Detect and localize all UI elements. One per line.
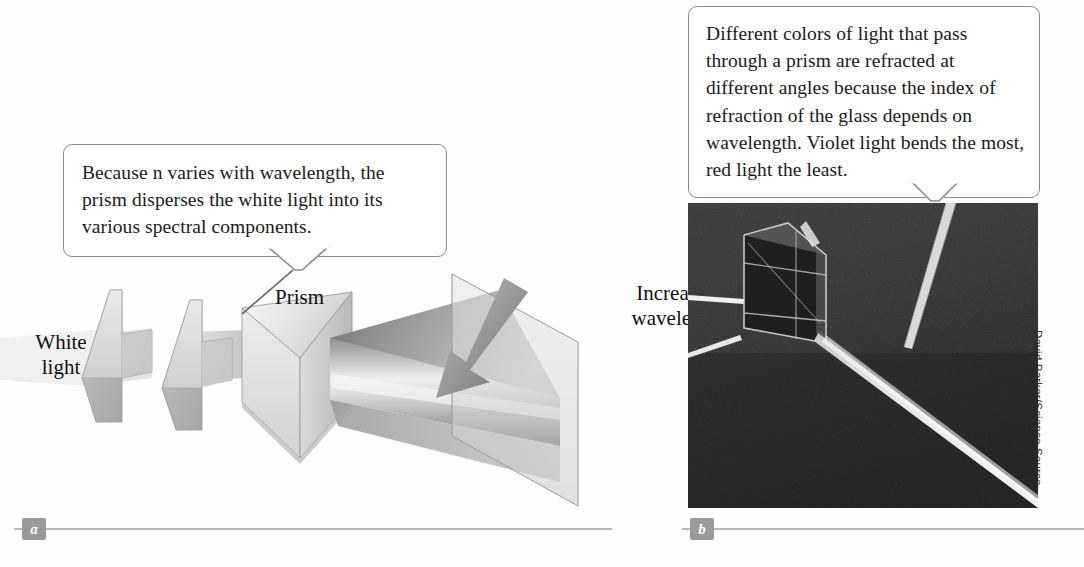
- panel-a-rule: [14, 528, 612, 530]
- panel-badge-a: a: [22, 518, 46, 540]
- label-white-light: White light: [6, 330, 116, 380]
- photo-credit: David Parker/Science Source: [1032, 330, 1044, 510]
- callout-panel-a: Because n varies with wavelength, the pr…: [63, 144, 447, 257]
- prism-photograph: [688, 203, 1038, 508]
- slit-plate-2: [162, 300, 232, 430]
- panel-b-rule: [682, 528, 1084, 530]
- callout-panel-b-text: Different colors of light that pass thro…: [706, 20, 1025, 183]
- callout-panel-a-text: Because n varies with wavelength, the pr…: [82, 159, 430, 240]
- figure-page: White light Prism Increasing wavelength …: [0, 0, 1084, 567]
- photo-prism: [744, 221, 826, 343]
- panel-badge-b: b: [690, 518, 714, 540]
- label-prism: Prism: [275, 285, 355, 310]
- callout-panel-b: Different colors of light that pass thro…: [688, 6, 1040, 198]
